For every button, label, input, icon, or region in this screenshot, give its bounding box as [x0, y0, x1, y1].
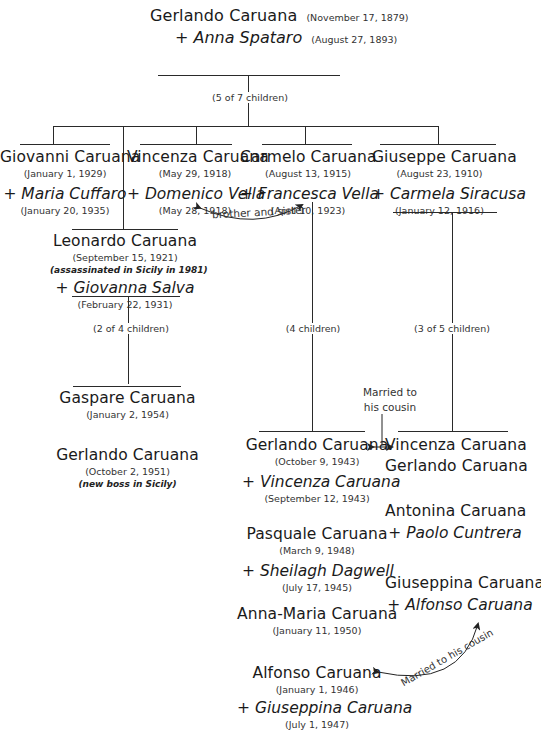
annotation-arrows: [0, 0, 541, 740]
